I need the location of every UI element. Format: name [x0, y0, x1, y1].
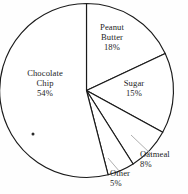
pie-chart-figure: Chocolate Chip 54% Peanut Butter 18% Sug… — [0, 0, 188, 194]
pie-label-chocolate-chip-percent: 54% — [6, 88, 84, 98]
pie-label-peanut-butter-line2: Butter — [101, 32, 123, 42]
pie-label-peanut-butter-line1: Peanut — [100, 22, 124, 32]
pie-label-sugar-line1: Sugar — [124, 78, 145, 88]
pie-label-oatmeal: Oatmeal 8% — [140, 149, 188, 169]
pie-label-other-line1: Other — [110, 168, 130, 178]
pie-label-sugar: Sugar 15% — [108, 78, 160, 98]
pie-label-chocolate-chip-line1: Chocolate — [27, 68, 63, 78]
pie-label-sugar-percent: 15% — [108, 88, 160, 98]
pie-label-other: Other 5% — [110, 168, 154, 188]
pie-label-peanut-butter: Peanut Butter 18% — [84, 22, 140, 52]
pie-label-other-percent: 5% — [110, 178, 154, 188]
pie-label-chocolate-chip: Chocolate Chip 54% — [6, 68, 84, 98]
pie-label-chocolate-chip-line2: Chip — [36, 78, 53, 88]
pie-label-oatmeal-line1: Oatmeal — [140, 149, 170, 159]
pie-label-peanut-butter-percent: 18% — [84, 42, 140, 52]
scan-speck-mark — [32, 133, 35, 136]
